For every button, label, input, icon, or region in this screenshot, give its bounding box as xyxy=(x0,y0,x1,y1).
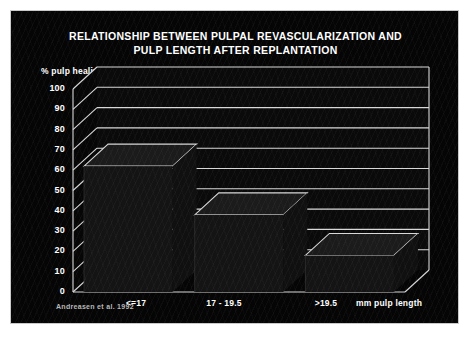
slide-frame: RELATIONSHIP BETWEEN PULPAL REVASCULARIZ… xyxy=(10,10,459,324)
chart-canvas xyxy=(11,11,459,324)
y-axis-tick-20: 20 xyxy=(39,245,65,255)
source-citation: Andreasen et al. 1992 xyxy=(56,303,134,310)
y-axis-tick-100: 100 xyxy=(39,83,65,93)
x-axis-label: mm pulp length xyxy=(356,298,422,308)
y-axis-tick-70: 70 xyxy=(39,144,65,154)
y-axis-tick-10: 10 xyxy=(39,266,65,276)
y-axis-tick-80: 80 xyxy=(39,124,65,134)
x-axis-category-3: >19.5 xyxy=(291,298,361,308)
bar-chart-plot: 0102030405060708090100<=1717 - 19.5>19.5… xyxy=(11,11,459,324)
x-axis-category-2: 17 - 19.5 xyxy=(189,298,259,308)
y-axis-tick-0: 0 xyxy=(39,286,65,296)
y-axis-tick-50: 50 xyxy=(39,185,65,195)
y-axis-tick-40: 40 xyxy=(39,205,65,215)
y-axis-tick-90: 90 xyxy=(39,103,65,113)
y-axis-tick-30: 30 xyxy=(39,225,65,235)
y-axis-tick-60: 60 xyxy=(39,164,65,174)
